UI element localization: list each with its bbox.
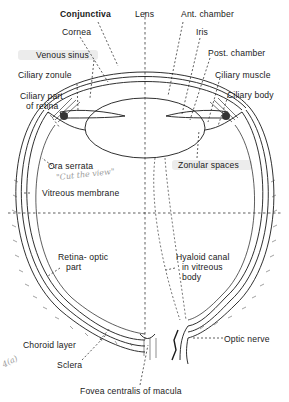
label-ciliary-muscle: Ciliary muscle	[215, 70, 271, 80]
label-conjunctiva: Conjunctiva	[60, 9, 111, 19]
label-iris: Iris	[196, 27, 208, 37]
label-optic-nerve: Optic nerve	[224, 334, 270, 344]
label-ciliary-part-retina-1: Ciliary part	[20, 91, 63, 101]
label-sclera: Sclera	[57, 360, 82, 370]
label-ciliary-body: Ciliary body	[227, 90, 274, 100]
label-lens: Lens	[135, 9, 154, 19]
label-fovea: Fovea centralis of macula	[80, 386, 182, 396]
label-choroid: Choroid layer	[23, 340, 76, 350]
label-hyaloid-3: body	[182, 272, 201, 282]
label-post-chamber: Post. chamber	[208, 48, 265, 58]
label-retina-optic-1: Retina- optic	[58, 252, 108, 262]
label-hyaloid-1: Hyaloid canal	[176, 252, 230, 262]
eye-diagram: Conjunctiva Lens Ant. chamber Cornea Iri…	[0, 0, 289, 402]
label-vitreous-membrane: Vitreous membrane	[42, 188, 119, 198]
label-venous-sinus: Venous sinus	[36, 50, 89, 60]
sclera-outline	[16, 108, 145, 352]
iris-right	[166, 110, 228, 118]
label-ciliary-zonule: Ciliary zonule	[18, 70, 72, 80]
label-cornea: Cornea	[62, 27, 91, 37]
label-zonular-spaces: Zonular spaces	[178, 160, 239, 170]
label-ant-chamber: Ant. chamber	[181, 9, 234, 19]
label-retina-optic-2: part	[66, 262, 81, 272]
label-ciliary-part-retina-2: of retina	[26, 101, 58, 111]
label-hyaloid-2: in vitreous	[182, 262, 223, 272]
